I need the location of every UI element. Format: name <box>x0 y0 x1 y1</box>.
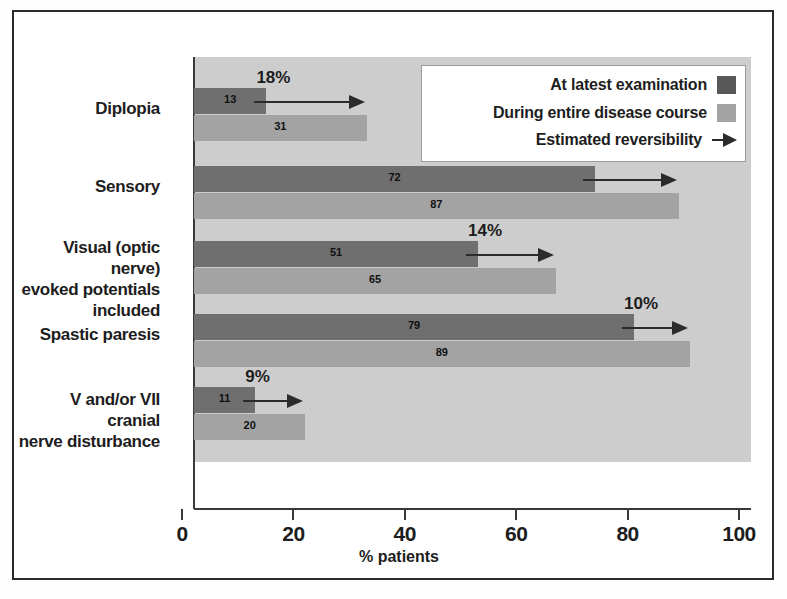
chart-page: 020406080100 % patients DiplopiaSensoryV… <box>0 0 787 599</box>
chart-frame: 020406080100 % patients DiplopiaSensoryV… <box>12 10 774 580</box>
reversibility-percent-label: 18% <box>256 68 290 88</box>
legend-label: During entire disease course <box>493 104 707 122</box>
category-label: V and/or VII cranialnerve disturbance <box>14 389 160 452</box>
reversibility-percent-label: 10% <box>624 294 658 314</box>
category-label-line: Sensory <box>95 176 160 197</box>
bar-during-entire-disease-course: 31 <box>194 115 367 141</box>
category-label-line: Visual (optic nerve) <box>14 237 160 279</box>
bar-during-entire-disease-course: 20 <box>194 414 305 440</box>
x-axis-title: % patients <box>359 548 439 566</box>
x-axis-tick <box>292 509 294 520</box>
x-axis-tick-label: 20 <box>282 522 304 546</box>
bar-during-entire-disease-course: 89 <box>194 341 690 367</box>
bar-during-entire-disease-course: 65 <box>194 268 556 294</box>
x-axis-tick-label: 80 <box>616 522 638 546</box>
legend-label: At latest examination <box>550 76 707 94</box>
bar-at-latest-examination: 72 <box>194 166 595 192</box>
reversibility-arrow <box>466 254 554 256</box>
category-label-line: nerve disturbance <box>14 431 160 452</box>
bar-during-entire-disease-course: 87 <box>194 193 679 219</box>
reversibility-arrow <box>254 101 364 103</box>
plot-lower-white-area <box>194 462 751 509</box>
category-label: Visual (optic nerve)evoked potentialsinc… <box>14 237 160 321</box>
x-axis-tick-label: 40 <box>394 522 416 546</box>
x-axis-tick-label: 0 <box>176 522 187 546</box>
bar-value-label: 13 <box>224 93 236 105</box>
legend-item-during-entire-disease-course: During entire disease course <box>493 104 736 122</box>
bar-value-label: 72 <box>388 171 400 183</box>
bar-value-label: 89 <box>436 346 448 358</box>
reversibility-arrow <box>243 400 303 402</box>
reversibility-percent-label: 14% <box>468 221 502 241</box>
bar-value-label: 11 <box>219 392 231 404</box>
bar-value-label: 79 <box>408 319 420 331</box>
light-swatch-icon <box>717 104 736 122</box>
bar-value-label: 51 <box>330 246 342 258</box>
x-axis-tick-label: 60 <box>505 522 527 546</box>
bar-at-latest-examination: 51 <box>194 241 478 267</box>
x-axis-tick-label: 100 <box>722 522 756 546</box>
category-label-line: Spastic paresis <box>40 324 160 345</box>
category-label-line: V and/or VII cranial <box>14 389 160 431</box>
reversibility-percent-label: 9% <box>245 367 270 387</box>
x-axis-tick <box>515 509 517 520</box>
x-axis-tick <box>404 509 406 520</box>
bar-value-label: 65 <box>369 273 381 285</box>
legend-item-at-latest-examination: At latest examination <box>550 76 736 94</box>
x-axis-tick <box>627 509 629 520</box>
category-label-line: evoked potentials <box>14 279 160 300</box>
dark-swatch-icon <box>717 76 736 94</box>
legend-item-estimated-reversibility: Estimated reversibility <box>536 131 736 149</box>
x-axis-line <box>194 508 751 510</box>
bar-value-label: 20 <box>244 419 256 431</box>
reversibility-arrow <box>622 327 688 329</box>
category-label: Spastic paresis <box>40 324 160 345</box>
legend-label: Estimated reversibility <box>536 131 702 149</box>
bar-value-label: 87 <box>430 198 442 210</box>
category-label-line: Diplopia <box>95 98 160 119</box>
arrow-icon <box>712 133 736 147</box>
bar-value-label: 31 <box>274 120 286 132</box>
x-axis-tick <box>181 509 183 520</box>
category-label: Sensory <box>95 176 160 197</box>
category-label-line: included <box>14 300 160 321</box>
category-label: Diplopia <box>95 98 160 119</box>
reversibility-arrow <box>583 179 677 181</box>
chart-legend: At latest examination During entire dise… <box>421 65 746 162</box>
x-axis-tick <box>738 509 740 520</box>
bar-at-latest-examination: 79 <box>194 314 634 340</box>
